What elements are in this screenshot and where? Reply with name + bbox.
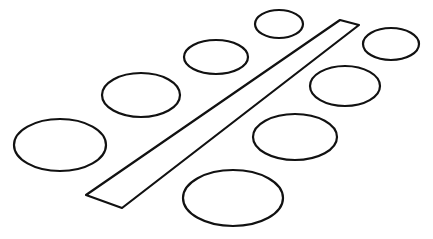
- seats-left-group: [14, 10, 303, 171]
- seat-oval-right-1: [363, 28, 419, 60]
- seat-oval-left-2: [184, 40, 248, 74]
- diagram-canvas: [0, 0, 433, 239]
- seats-right-group: [183, 28, 419, 226]
- seat-oval-right-4: [183, 170, 283, 226]
- table-seating-diagram: [0, 0, 433, 239]
- table-rectangle: [86, 20, 359, 208]
- seat-oval-left-1: [255, 10, 303, 38]
- seat-oval-left-3: [102, 73, 180, 117]
- seat-oval-right-2: [310, 66, 380, 106]
- seat-oval-right-3: [253, 114, 337, 160]
- seat-oval-left-4: [14, 119, 106, 171]
